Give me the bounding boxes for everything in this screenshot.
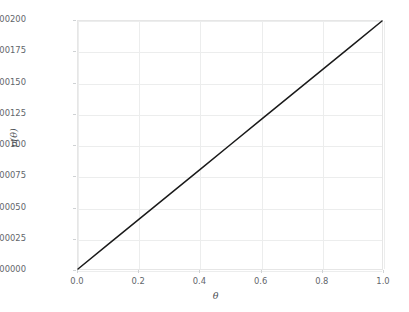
x-axis-label-text: θ bbox=[213, 290, 219, 301]
data-series-layer bbox=[78, 21, 382, 269]
x-tick-mark bbox=[199, 270, 200, 273]
y-tick-mark bbox=[73, 208, 76, 209]
y-tick-label-text: 0.00200 bbox=[0, 14, 26, 24]
y-tick-label-text: 0.00150 bbox=[0, 77, 26, 87]
y-tick-mark bbox=[73, 51, 76, 52]
y-tick-mark bbox=[73, 145, 76, 146]
x-tick-label: 0.8 bbox=[315, 276, 328, 286]
y-tick-label-text: 0.00025 bbox=[0, 233, 26, 243]
y-axis-label: p(θ) bbox=[8, 134, 19, 148]
y-tick-label-text: 0.00175 bbox=[0, 45, 26, 55]
chart-figure: 0.000000.000250.000500.000750.001000.001… bbox=[0, 0, 409, 312]
y-tick-label-text: 0.00050 bbox=[0, 202, 26, 212]
x-tick-label: 0.0 bbox=[70, 276, 83, 286]
y-tick-mark bbox=[73, 176, 76, 177]
plot-area bbox=[77, 20, 383, 270]
x-tick-mark bbox=[383, 270, 384, 273]
x-tick-label: 0.2 bbox=[132, 276, 145, 286]
y-tick-label-text: 0.00000 bbox=[0, 264, 26, 274]
x-tick-label: 1.0 bbox=[376, 276, 389, 286]
x-tick-label: 0.4 bbox=[193, 276, 206, 286]
y-tick-label-text: 0.00125 bbox=[0, 108, 26, 118]
y-tick-mark bbox=[73, 114, 76, 115]
y-tick-mark bbox=[73, 83, 76, 84]
y-tick-mark bbox=[73, 20, 76, 21]
x-tick-mark bbox=[322, 270, 323, 273]
y-tick-mark bbox=[73, 270, 76, 271]
x-tick-mark bbox=[261, 270, 262, 273]
x-tick-mark bbox=[77, 270, 78, 273]
line-series-p-theta bbox=[78, 21, 382, 269]
x-tick-label: 0.6 bbox=[254, 276, 267, 286]
gridline-vertical bbox=[384, 21, 385, 269]
y-tick-mark bbox=[73, 239, 76, 240]
x-tick-mark bbox=[138, 270, 139, 273]
x-axis-label: θ bbox=[0, 290, 409, 301]
gridline-horizontal bbox=[78, 271, 382, 272]
y-tick-label-text: 0.00075 bbox=[0, 170, 26, 180]
